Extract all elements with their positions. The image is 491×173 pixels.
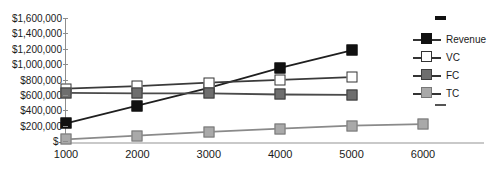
y-axis-tick-label: $400,000 xyxy=(20,105,62,116)
legend-label: FC xyxy=(446,68,459,83)
legend-label: TC xyxy=(446,86,459,101)
y-axis-tick-label: $200,000 xyxy=(20,120,62,131)
line-chart: $1,600,000$1,400,000$1,200,000$1,000,000… xyxy=(0,0,491,173)
x-axis-tick-label: 1000 xyxy=(54,148,78,160)
data-point-revenue xyxy=(346,45,357,56)
data-point-revenue xyxy=(275,62,286,73)
y-axis-tick-label: $1,000,000 xyxy=(12,59,62,70)
legend-top-dash-icon xyxy=(435,16,446,20)
y-axis-tick-label: $1,200,000 xyxy=(12,43,62,54)
data-point-vc xyxy=(275,74,286,85)
data-point-fc xyxy=(275,89,286,100)
y-axis-tick-label: $1,600,000 xyxy=(12,13,62,24)
y-axis-tick xyxy=(63,33,68,34)
series-line-tc xyxy=(66,124,423,139)
data-point-vc xyxy=(203,77,214,88)
legend-marker-icon xyxy=(421,33,432,44)
data-point-tc xyxy=(346,120,357,131)
data-point-fc xyxy=(132,88,143,99)
data-point-revenue xyxy=(132,100,143,111)
x-axis-tick-label: 4000 xyxy=(268,148,292,160)
legend-marker-icon xyxy=(421,87,432,98)
y-axis-tick xyxy=(63,49,68,50)
y-axis-tick xyxy=(63,141,68,142)
y-axis-tick-label: $1,400,000 xyxy=(12,28,62,39)
data-point-tc xyxy=(61,134,72,145)
data-point-fc xyxy=(203,88,214,99)
x-axis-tick-label: 5000 xyxy=(339,148,363,160)
legend-label: VC xyxy=(446,50,460,65)
x-axis-line xyxy=(66,142,484,144)
y-axis-tick xyxy=(63,95,68,96)
x-axis-tick-label: 2000 xyxy=(125,148,149,160)
data-point-tc xyxy=(132,130,143,141)
y-axis-tick xyxy=(63,80,68,81)
y-axis-tick-label: $600,000 xyxy=(20,89,62,100)
y-axis-tick-label: $800,000 xyxy=(20,74,62,85)
y-axis-labels: $1,600,000$1,400,000$1,200,000$1,000,000… xyxy=(0,0,62,173)
data-point-tc xyxy=(275,123,286,134)
legend-label: Revenue xyxy=(446,32,486,47)
y-axis-tick xyxy=(63,18,68,19)
x-axis-tick-label: 3000 xyxy=(197,148,221,160)
data-point-fc xyxy=(346,89,357,100)
data-point-vc xyxy=(346,72,357,83)
legend-bottom-dash-icon xyxy=(435,104,446,106)
legend-marker-icon xyxy=(421,51,432,62)
data-point-tc xyxy=(203,126,214,137)
chart-legend: RevenueVCFCTC xyxy=(411,16,491,121)
x-axis-tick-label: 6000 xyxy=(411,148,435,160)
data-point-revenue xyxy=(61,118,72,129)
y-axis-tick xyxy=(63,126,68,127)
data-point-fc xyxy=(61,87,72,98)
y-axis-tick xyxy=(63,110,68,111)
legend-marker-icon xyxy=(421,69,432,80)
y-axis-tick xyxy=(63,64,68,65)
